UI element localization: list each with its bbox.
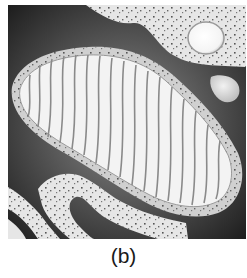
- mitochondrion-illustration: [8, 5, 246, 239]
- vesicle: [188, 22, 224, 54]
- panel-label: (b): [0, 244, 247, 268]
- mitochondrion-figure: [8, 5, 246, 239]
